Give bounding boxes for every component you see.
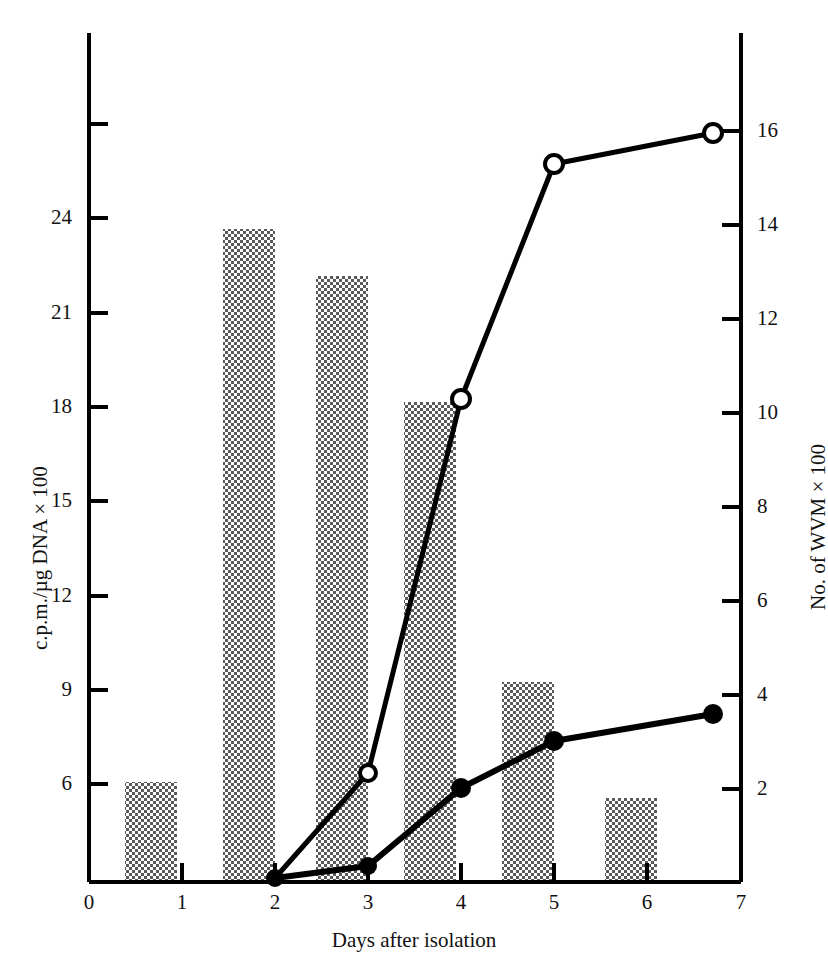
point-filled-circle-d2	[267, 870, 283, 886]
y-left-ticks	[89, 124, 108, 784]
y-right-tick-label-4: 4	[757, 684, 797, 705]
bar-day2	[223, 229, 275, 882]
y-right-tick-label-14: 14	[757, 214, 797, 235]
y-right-tick-label-16: 16	[757, 120, 797, 141]
bar-day4	[404, 402, 456, 882]
x-tick-label-3: 3	[348, 892, 388, 913]
x-tick-label-5: 5	[534, 892, 574, 913]
bar-day3	[316, 276, 368, 882]
figure-root: 24 21 18 15 12 9 6 16 14 12 10 8 6 4 2 0…	[0, 0, 828, 964]
x-tick-label-1: 1	[162, 892, 202, 913]
y-right-tick-label-10: 10	[757, 402, 797, 423]
x-tick-label-2: 2	[255, 892, 295, 913]
bar-day1	[125, 782, 177, 882]
point-filled-circle-d3	[359, 857, 377, 875]
x-tick-label-4: 4	[441, 892, 481, 913]
y-axis-left-title: c.p.m./µg DNA × 100	[28, 466, 53, 650]
x-tick-label-0: 0	[69, 892, 109, 913]
y-right-tick-label-12: 12	[757, 308, 797, 329]
bar-day5	[502, 682, 554, 882]
y-left-tick-label-6: 6	[36, 773, 72, 794]
point-filled-circle-d4	[451, 778, 471, 798]
point-filled-circle-d7	[703, 704, 723, 724]
y-left-tick-label-21: 21	[36, 302, 72, 323]
y-axis-right-title: No. of WVM × 100	[806, 444, 828, 610]
y-right-tick-label-6: 6	[757, 590, 797, 611]
bar-day6	[605, 798, 657, 882]
y-right-tick-label-8: 8	[757, 496, 797, 517]
chart-canvas	[0, 0, 828, 964]
bars-group	[125, 229, 657, 882]
x-tick-label-6: 6	[627, 892, 667, 913]
point-open-circle-d4	[452, 390, 470, 408]
y-right-ticks	[722, 131, 741, 789]
y-right-tick-label-2: 2	[757, 778, 797, 799]
y-left-tick-label-24: 24	[36, 207, 72, 228]
y-left-tick-label-18: 18	[36, 396, 72, 417]
point-filled-circle-d5	[544, 731, 564, 751]
point-open-circle-d3	[360, 765, 376, 781]
x-axis-title: Days after isolation	[214, 928, 614, 953]
point-open-circle-d7	[704, 124, 722, 142]
point-open-circle-d5	[545, 155, 563, 173]
y-left-tick-label-9: 9	[36, 679, 72, 700]
x-tick-label-7: 7	[721, 892, 761, 913]
